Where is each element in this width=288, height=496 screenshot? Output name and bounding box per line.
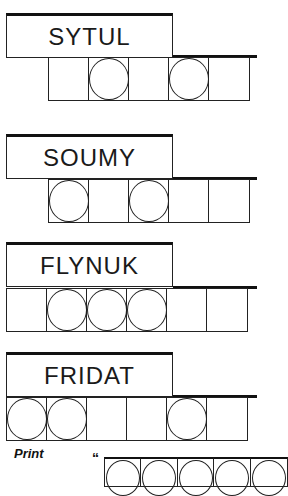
circle-marker-icon: [179, 460, 213, 496]
scrambled-word-box: SOUMY: [6, 134, 173, 179]
circle-marker-icon: [129, 180, 169, 222]
letter-cell-circled[interactable]: [126, 288, 168, 332]
circle-marker-icon: [47, 398, 87, 440]
letter-cell[interactable]: [6, 288, 48, 332]
scrambled-word-box: FLYNUK: [6, 242, 173, 287]
letter-cell-circled[interactable]: [86, 288, 128, 332]
letter-cell[interactable]: [48, 57, 90, 101]
answer-cells: [6, 397, 248, 441]
letter-cell-circled[interactable]: [166, 397, 208, 441]
letter-cell-circled[interactable]: [46, 397, 88, 441]
letter-cell[interactable]: [206, 397, 248, 441]
final-answer-cell[interactable]: [177, 457, 215, 487]
final-answer-cells: [105, 457, 288, 487]
final-answer-cell[interactable]: [213, 457, 251, 487]
letter-cell[interactable]: [208, 57, 250, 101]
scrambled-word: SOUMY: [43, 146, 136, 170]
circle-marker-icon: [142, 460, 176, 496]
circle-marker-icon: [89, 58, 129, 100]
circle-marker-icon: [49, 180, 89, 222]
final-answer-cell[interactable]: [250, 457, 288, 487]
letter-cell-circled[interactable]: [168, 57, 210, 101]
answer-cells: [6, 288, 248, 332]
scrambled-word-box: SYTUL: [6, 13, 173, 58]
letter-cell[interactable]: [166, 288, 208, 332]
circle-marker-icon: [87, 289, 127, 331]
letter-cell[interactable]: [126, 397, 168, 441]
circle-marker-icon: [252, 460, 286, 496]
letter-cell[interactable]: [128, 57, 170, 101]
answer-cells: [48, 57, 250, 101]
circle-marker-icon: [106, 460, 140, 496]
letter-cell-circled[interactable]: [46, 288, 88, 332]
scrambled-word: FRIDAT: [44, 364, 135, 388]
circle-marker-icon: [127, 289, 167, 331]
letter-cell-circled[interactable]: [88, 57, 130, 101]
letter-cell[interactable]: [88, 179, 130, 223]
print-label: Print: [14, 446, 44, 461]
open-quote: “: [92, 450, 99, 466]
letter-cell[interactable]: [206, 288, 248, 332]
circle-marker-icon: [7, 398, 47, 440]
letter-cell[interactable]: [208, 179, 250, 223]
final-answer-section: Print “: [0, 446, 268, 465]
circle-marker-icon: [167, 398, 207, 440]
letter-cell[interactable]: [86, 397, 128, 441]
scrambled-word: FLYNUK: [40, 254, 139, 278]
answer-cells: [48, 179, 250, 223]
letter-cell-circled[interactable]: [128, 179, 170, 223]
scrambled-word: SYTUL: [48, 25, 130, 49]
final-answer-cell[interactable]: [140, 457, 178, 487]
circle-marker-icon: [169, 58, 209, 100]
letter-cell-circled[interactable]: [48, 179, 90, 223]
letter-cell[interactable]: [168, 179, 210, 223]
letter-cell-circled[interactable]: [6, 397, 48, 441]
scrambled-word-box: FRIDAT: [6, 352, 173, 397]
circle-marker-icon: [47, 289, 87, 331]
final-answer-cell[interactable]: [104, 457, 142, 487]
circle-marker-icon: [215, 460, 249, 496]
